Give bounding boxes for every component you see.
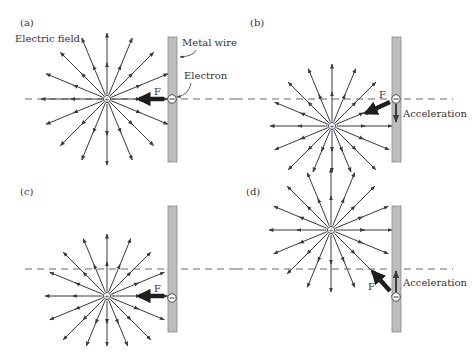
field-lines-c — [45, 234, 168, 346]
charge-symbol-b: + — [329, 123, 335, 131]
field-line-direction-marker — [308, 102, 309, 103]
field-line-direction-marker — [319, 94, 320, 96]
field-line-direction-marker — [362, 138, 364, 139]
positive-charge-d: + — [327, 226, 334, 235]
acceleration-label-d: Acceleration — [402, 277, 467, 288]
field-line-direction-marker — [75, 308, 77, 309]
electron-label: Electron — [184, 70, 228, 81]
electric-field-diagram: (a) F + Electric field Metal wire Electr… — [0, 0, 473, 353]
field-line-direction-marker — [96, 322, 97, 324]
field-line-direction-marker — [361, 217, 363, 218]
charge-symbol-d: + — [328, 227, 334, 235]
electron-a — [168, 95, 176, 103]
panel-label-a: (a) — [20, 17, 34, 28]
field-line-direction-marker — [130, 319, 131, 320]
field-line-direction-marker — [73, 85, 75, 86]
field-line-direction-marker — [139, 85, 141, 86]
positive-charge-a: + — [103, 95, 110, 104]
field-line-direction-marker — [300, 138, 302, 139]
panel-b: (b) F Acceleration + — [236, 17, 467, 172]
field-line-direction-marker — [343, 260, 344, 262]
field-line-direction-marker — [137, 308, 139, 309]
field-line-direction-marker — [120, 131, 121, 133]
field-line-direction-marker — [300, 113, 302, 114]
field-line-direction-marker — [83, 272, 84, 273]
field-line-direction-marker — [318, 198, 319, 200]
field-line-direction-marker — [137, 283, 139, 284]
field-line-direction-marker — [344, 94, 345, 96]
field-line-direction-marker — [354, 253, 355, 254]
electron-d — [392, 293, 400, 301]
field-line-direction-marker — [355, 102, 356, 103]
force-label-d: F — [368, 281, 375, 292]
field-line-direction-marker — [118, 322, 119, 324]
positive-charge-b: + — [328, 122, 335, 131]
force-label-a: F — [154, 86, 161, 97]
field-line-direction-marker — [81, 123, 82, 124]
metal-wire-pointer — [180, 50, 196, 57]
panel-d: (d) F Acceleration + — [236, 168, 467, 332]
field-line-direction-marker — [355, 149, 356, 150]
electric-field-label: Electric field — [15, 33, 81, 44]
force-arrow-d — [373, 272, 390, 291]
panel-label-c: (c) — [20, 186, 34, 197]
field-line-direction-marker — [139, 112, 141, 113]
acceleration-label-b: Acceleration — [402, 108, 467, 119]
field-line-direction-marker — [299, 242, 301, 243]
field-line-direction-marker — [120, 65, 121, 67]
field-line-direction-marker — [354, 206, 355, 207]
field-line-direction-marker — [131, 123, 132, 124]
field-line-direction-marker — [73, 112, 75, 113]
field-line-direction-marker — [307, 253, 308, 254]
electron-pointer — [177, 83, 191, 97]
field-line-direction-marker — [318, 260, 319, 262]
field-line-direction-marker — [130, 272, 131, 273]
positive-charge-c: + — [103, 292, 110, 301]
field-line-direction-marker — [119, 264, 120, 266]
field-line-direction-marker — [342, 149, 343, 151]
charge-symbol-c: + — [104, 293, 110, 301]
force-label-c: F — [154, 283, 161, 294]
panel-c: (c) F + — [20, 186, 236, 346]
field-line-direction-marker — [299, 217, 301, 218]
charge-symbol-a: + — [104, 96, 110, 104]
panel-label-d: (d) — [246, 186, 260, 197]
field-line-direction-marker — [75, 283, 77, 284]
field-line-direction-marker — [362, 113, 364, 114]
electron-c — [168, 294, 176, 302]
field-line-direction-marker — [93, 65, 94, 67]
field-line-direction-marker — [308, 149, 309, 150]
force-label-b: F — [379, 89, 386, 100]
field-line-direction-marker — [343, 198, 344, 200]
field-line-direction-marker — [131, 73, 132, 74]
field-line-direction-marker — [93, 131, 94, 133]
field-line-direction-marker — [81, 73, 82, 74]
field-line-direction-marker — [307, 206, 308, 207]
force-arrow-b — [366, 102, 390, 113]
electron-b — [392, 95, 400, 103]
metal-wire-c — [168, 206, 177, 332]
field-line-direction-marker — [361, 242, 363, 243]
panel-label-b: (b) — [250, 17, 264, 28]
panel-a: (a) F + Electric field Metal wire Electr… — [15, 17, 237, 165]
field-lines-b — [270, 64, 392, 172]
metal-wire-label: Metal wire — [182, 37, 237, 48]
field-line-direction-marker — [94, 264, 95, 266]
field-line-direction-marker — [83, 319, 84, 320]
field-line-direction-marker — [322, 149, 323, 151]
metal-wire-d — [392, 206, 401, 332]
